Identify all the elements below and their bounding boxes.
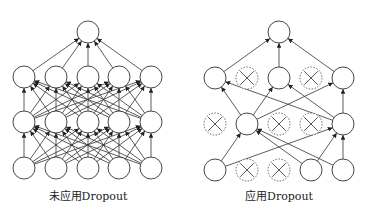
neuron-node <box>300 159 322 181</box>
dropped-neuron-icon <box>300 67 322 89</box>
neuron-node <box>108 66 130 88</box>
neuron-node <box>77 157 99 179</box>
dropped-neuron-icon <box>300 113 322 135</box>
connection-arrow <box>317 133 336 161</box>
caption-standard-network: 未应用Dropout <box>49 187 128 203</box>
connection-arrow <box>253 87 272 115</box>
neuron-node <box>140 66 162 88</box>
neuron-node <box>45 111 67 133</box>
neuron-node <box>332 67 354 89</box>
neuron-node <box>204 67 226 89</box>
connection-arrow <box>62 41 81 68</box>
neuron-node <box>13 66 35 88</box>
neuron-node <box>77 66 99 88</box>
neuron-node <box>332 159 354 181</box>
standard-network-edges <box>24 38 151 164</box>
neuron-node <box>77 21 99 43</box>
dropped-neuron-icon <box>236 67 258 89</box>
neuron-node <box>77 111 99 133</box>
neuron-node <box>108 111 130 133</box>
neuron-node <box>140 157 162 179</box>
caption-dropout-network: 应用Dropout <box>245 187 313 203</box>
dropped-neuron-icon <box>268 113 290 135</box>
connection-arrow <box>257 129 333 165</box>
dropout-comparison-diagram <box>0 0 366 215</box>
neuron-node <box>204 159 226 181</box>
connection-arrow <box>94 41 113 68</box>
connection-arrow <box>221 87 240 115</box>
neuron-node <box>268 21 290 43</box>
connection-arrow <box>221 133 240 161</box>
neuron-node <box>13 157 35 179</box>
connection-arrow <box>257 83 333 119</box>
neuron-node <box>236 113 258 135</box>
neuron-node <box>45 157 67 179</box>
neuron-node <box>332 113 354 135</box>
dropout-network-edges <box>221 38 343 166</box>
standard-network-nodes <box>13 21 162 179</box>
neuron-node <box>268 67 290 89</box>
neuron-node <box>140 111 162 133</box>
dropped-neuron-icon <box>236 159 258 181</box>
dropped-neuron-icon <box>268 159 290 181</box>
neuron-node <box>108 157 130 179</box>
neuron-node <box>45 66 67 88</box>
dropped-neuron-icon <box>204 113 226 135</box>
neuron-node <box>13 111 35 133</box>
